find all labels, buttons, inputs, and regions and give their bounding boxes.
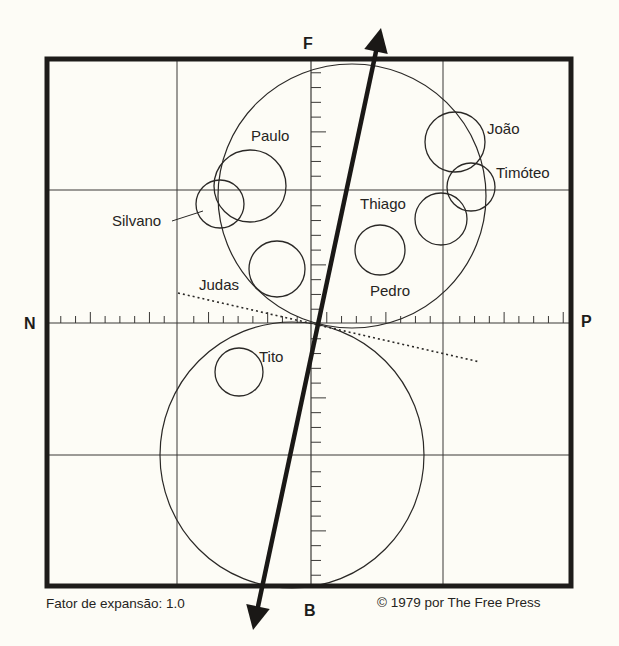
axis-label-right: P	[581, 314, 592, 330]
member-circle-paulo	[214, 150, 286, 222]
label-silvano: Silvano	[112, 213, 161, 228]
label-judas: Judas	[199, 277, 239, 292]
label-joao: João	[487, 121, 520, 136]
member-circle-judas	[249, 241, 305, 297]
vector-arrow	[246, 28, 387, 630]
member-circle-pedro	[355, 225, 405, 275]
upper-group-circle	[218, 64, 486, 328]
member-circle-tito	[215, 348, 263, 396]
diagram-canvas	[0, 0, 619, 646]
label-paulo: Paulo	[251, 128, 289, 143]
member-circle-timóteo	[447, 163, 495, 211]
expansion-factor-note: Fator de expansão: 1.0	[46, 597, 185, 611]
label-pedro: Pedro	[370, 283, 410, 298]
label-tito: Tito	[259, 349, 283, 364]
label-timoteo: Timóteo	[496, 165, 550, 180]
axis-label-bottom: B	[304, 603, 316, 619]
label-thiago: Thiago	[360, 196, 406, 211]
member-circles	[196, 112, 495, 396]
axis-label-left: N	[24, 316, 36, 332]
copyright-note: © 1979 por The Free Press	[377, 596, 541, 610]
axis-label-top: F	[303, 36, 313, 52]
group-circles	[160, 64, 486, 588]
member-circle-thiago	[415, 193, 467, 245]
